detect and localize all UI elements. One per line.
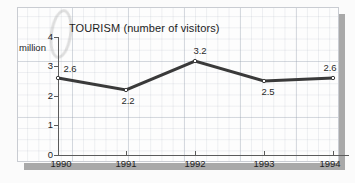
sheet-shadow-right [339, 14, 345, 169]
data-point-1991 [124, 88, 127, 91]
series-line [58, 61, 333, 90]
plot-area: TOURISM (number of visitors) 4 3 2 1 0 m… [17, 7, 339, 162]
data-point-1994 [331, 76, 334, 79]
series-tourism [17, 7, 339, 162]
data-label-1992: 3.2 [193, 45, 206, 56]
data-label-1994: 2.6 [323, 62, 336, 73]
data-point-1990 [56, 76, 59, 79]
data-point-1992 [193, 59, 196, 62]
data-point-1993 [262, 79, 265, 82]
data-label-1993: 2.5 [261, 86, 274, 97]
chart-screenshot: TOURISM (number of visitors) 4 3 2 1 0 m… [0, 0, 355, 183]
data-label-1991: 2.2 [121, 95, 134, 106]
data-label-1990: 2.6 [63, 63, 76, 74]
